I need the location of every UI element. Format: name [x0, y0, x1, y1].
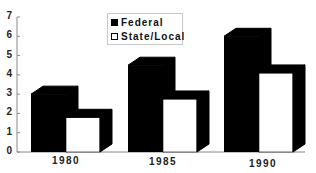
bar-state-local-side: [293, 65, 305, 152]
legend: Federal State/Local: [107, 13, 183, 45]
bar-federal-1980: [31, 94, 66, 152]
bar-federal-1990: [224, 36, 259, 152]
bar-state-local-1985: [163, 99, 197, 152]
bar-federal-1985: [128, 65, 163, 152]
legend-swatch-federal: [111, 19, 118, 26]
y-tick-label: 0: [0, 145, 12, 156]
x-tick-label-1985: 1985: [138, 156, 188, 167]
legend-item-state-local: State/Local: [111, 30, 185, 42]
bar-state-local-side: [197, 91, 209, 152]
legend-item-federal: Federal: [111, 16, 164, 28]
bar-state-local-1980: [66, 117, 100, 152]
y-tick-label: 5: [0, 49, 12, 60]
legend-label: State/Local: [121, 31, 185, 42]
y-tick-label: 4: [0, 68, 12, 79]
x-tick-label-1980: 1980: [41, 155, 91, 166]
y-tick-label: 2: [0, 106, 12, 117]
x-tick-label-1990: 1990: [238, 158, 288, 169]
y-tick-label: 7: [0, 10, 12, 21]
y-tick-label: 6: [0, 29, 12, 40]
y-tick-label: 3: [0, 87, 12, 98]
legend-swatch-state-local: [111, 33, 118, 40]
bars: [31, 28, 305, 152]
y-tick-label: 1: [0, 126, 12, 137]
bar-state-local-1990: [259, 73, 293, 152]
bar-state-local-side: [100, 109, 112, 152]
legend-label: Federal: [121, 17, 164, 28]
